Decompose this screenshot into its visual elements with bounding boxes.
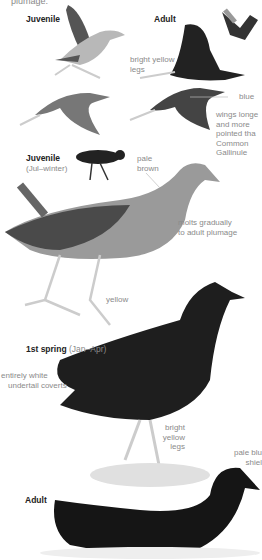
juvenile-small-illustration: [76, 150, 125, 180]
juvenile-flying-illustration: [55, 5, 125, 78]
annotation-undertail: entirely white undertail coverts: [1, 371, 67, 390]
section-title-adult-top: Adult: [154, 15, 176, 25]
annotation-pale-brown: pale brown: [137, 154, 159, 173]
annotation-blue: blue: [239, 92, 254, 102]
juvenile-flight-illustration: [20, 93, 110, 135]
adult-small-flying-illustration: [222, 10, 258, 40]
annotation-wings: wings longe and more pointed tha Common …: [216, 110, 258, 158]
annotation-shield: pale blu shiel: [228, 448, 262, 467]
section-title-juvenile-mid: Juvenile: [26, 154, 60, 164]
section-subtitle-juvenile-mid: (Jul–winter): [26, 164, 67, 174]
section-title-adult-bottom: Adult: [25, 496, 47, 506]
section-title-first-spring: 1st spring (Jan–Apr): [26, 345, 106, 355]
adult-flight-illustration: [130, 88, 225, 130]
annotation-bright-yellow-legs-mid: bright yellow legs: [160, 423, 185, 452]
bird-illustrations: [0, 0, 262, 560]
section-title-juvenile-top: Juvenile: [26, 15, 60, 25]
annotation-bright-yellow-legs-top: bright yellow legs: [130, 55, 174, 74]
annotation-yellow: yellow: [106, 295, 128, 305]
first-spring-illustration: [57, 282, 245, 487]
annotation-molts: molts gradually to adult plumage: [178, 218, 237, 237]
caption-fragment: plumage.: [11, 0, 48, 7]
